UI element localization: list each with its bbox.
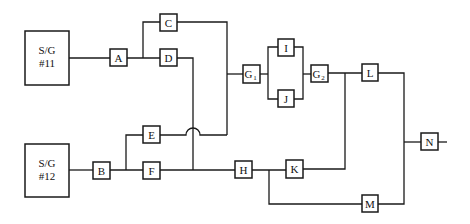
block-l-label: L <box>367 67 374 79</box>
block-n: N <box>421 133 438 150</box>
block-g2-subscript: 2 <box>321 74 325 82</box>
block-g1-label: G <box>245 68 253 80</box>
block-d: D <box>160 49 177 66</box>
block-b: B <box>93 162 110 179</box>
block-b-label: B <box>98 165 105 177</box>
block-g1: G 1 <box>243 65 260 83</box>
block-j: J <box>278 90 294 107</box>
block-a: A <box>110 49 127 66</box>
block-k: K <box>286 160 303 178</box>
block-f-label: F <box>148 165 154 177</box>
sg11-label-line1: S/G <box>38 44 55 56</box>
source-sg11: S/G #11 <box>25 31 69 85</box>
sg11-label-line2: #11 <box>39 57 55 69</box>
block-i-label: I <box>284 42 288 54</box>
block-e: E <box>143 126 160 143</box>
block-l: L <box>362 64 378 81</box>
block-c: C <box>160 14 177 31</box>
block-a-label: A <box>115 52 123 64</box>
sg12-label-line2: #12 <box>39 170 56 182</box>
block-g2-label: G <box>313 68 321 80</box>
block-n-label: N <box>426 136 434 148</box>
block-k-label: K <box>291 163 299 175</box>
block-g1-subscript: 1 <box>253 74 257 82</box>
sg12-label-line1: S/G <box>38 157 55 169</box>
block-m-label: M <box>365 198 375 210</box>
block-d-label: D <box>165 52 173 64</box>
block-e-label: E <box>148 129 155 141</box>
source-sg12: S/G #12 <box>25 144 69 197</box>
block-h: H <box>235 161 252 178</box>
block-c-label: C <box>165 17 172 29</box>
block-m: M <box>362 195 378 212</box>
block-g2: G 2 <box>311 65 328 82</box>
block-i: I <box>278 39 294 56</box>
reliability-block-diagram: S/G #11 S/G #12 A C D B E F G 1 I <box>0 0 470 224</box>
block-j-label: J <box>284 93 289 105</box>
block-f: F <box>143 162 160 179</box>
block-h-label: H <box>240 164 248 176</box>
